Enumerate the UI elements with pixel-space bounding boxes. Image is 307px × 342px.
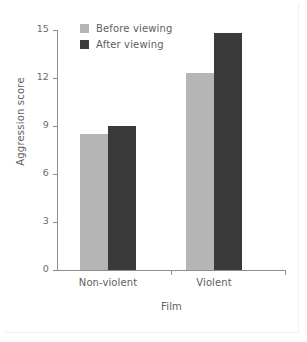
y-tick-mark [53, 222, 58, 223]
chart-legend: Before viewing After viewing [80, 20, 172, 52]
y-tick-mark [53, 270, 58, 271]
legend-label-after: After viewing [96, 39, 164, 50]
y-tick-label: 15 [11, 23, 49, 34]
x-category-label-nonviolent: Non-violent [63, 277, 153, 288]
y-axis-line [57, 30, 58, 271]
legend-label-before: Before viewing [96, 23, 172, 34]
x-tick-mark [171, 271, 172, 275]
chart-figure: 15 12 9 6 3 0 Non-viol [0, 0, 307, 342]
y-tick-label: 0 [11, 263, 49, 274]
y-tick-mark [53, 78, 58, 79]
x-category-label-violent: Violent [179, 277, 249, 288]
y-tick-label: 3 [11, 215, 49, 226]
bar-chart-plot-area: 15 12 9 6 3 0 Non-viol [0, 0, 307, 342]
bar-violent-before [186, 73, 214, 270]
bar-nonviolent-before [80, 134, 108, 270]
bar-violent-after [214, 33, 242, 270]
y-tick-0: 0 [0, 270, 58, 271]
y-tick-mark [53, 30, 58, 31]
y-tick-6: 6 [0, 174, 58, 175]
x-axis-title: Film [57, 301, 286, 312]
y-axis-title: Aggression score [15, 67, 26, 177]
bar-nonviolent-after [108, 126, 136, 270]
y-tick-9: 9 [0, 126, 58, 127]
y-tick-mark [53, 174, 58, 175]
y-tick-mark [53, 126, 58, 127]
legend-item-after: After viewing [80, 36, 172, 52]
legend-swatch-after-icon [80, 40, 89, 49]
y-tick-12: 12 [0, 78, 58, 79]
legend-swatch-before-icon [80, 24, 89, 33]
y-tick-15: 15 [0, 30, 58, 31]
y-tick-3: 3 [0, 222, 58, 223]
x-tick-mark [285, 271, 286, 275]
legend-item-before: Before viewing [80, 20, 172, 36]
